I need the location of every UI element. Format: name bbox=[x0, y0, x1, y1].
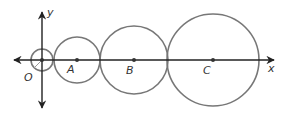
label-y-axis: y bbox=[46, 6, 54, 19]
point-a bbox=[75, 58, 79, 62]
label-b: B bbox=[126, 64, 134, 77]
point-o bbox=[40, 58, 44, 62]
point-c bbox=[211, 58, 215, 62]
label-o: O bbox=[24, 71, 33, 84]
label-a: A bbox=[66, 63, 75, 76]
diagram: y x O A B C bbox=[0, 0, 286, 116]
label-x-axis: x bbox=[267, 62, 275, 75]
point-b bbox=[132, 58, 136, 62]
label-c: C bbox=[203, 64, 211, 77]
